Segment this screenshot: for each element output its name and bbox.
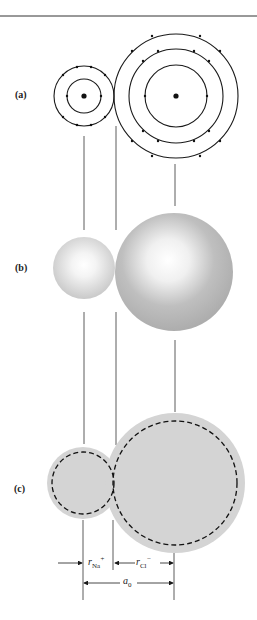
- dimension-arrows: [58, 563, 173, 583]
- cation-radius-label: rNa+: [88, 555, 105, 570]
- sodium-sphere: [53, 237, 115, 299]
- sodium-nucleus: [81, 93, 86, 98]
- chloride-sphere: [115, 213, 233, 331]
- anion-radius-label: rCl−: [136, 555, 151, 570]
- chloride-hard-sphere: [105, 413, 245, 553]
- lattice-parameter-label: a0: [123, 575, 132, 589]
- chloride-nucleus: [173, 93, 178, 98]
- ionic-radius-diagram: [0, 0, 257, 620]
- panel-label-b: (b): [15, 262, 27, 273]
- panel-label-c: (c): [14, 483, 25, 494]
- panel-label-a: (a): [15, 89, 27, 100]
